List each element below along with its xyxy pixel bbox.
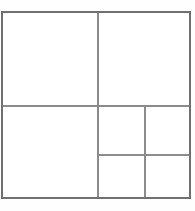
partitioned-rectangle-diagram bbox=[0, 0, 195, 211]
region-bottom-middle-lower bbox=[98, 155, 145, 198]
regions-layer bbox=[2, 12, 190, 198]
diagram-canvas bbox=[0, 0, 195, 211]
region-bottom-right-lower bbox=[145, 155, 190, 198]
region-bottom-middle-upper bbox=[98, 106, 145, 155]
region-bottom-left bbox=[2, 106, 98, 198]
region-bottom-right-upper bbox=[145, 106, 190, 155]
region-top-left bbox=[2, 12, 98, 106]
region-top-right bbox=[98, 12, 190, 106]
